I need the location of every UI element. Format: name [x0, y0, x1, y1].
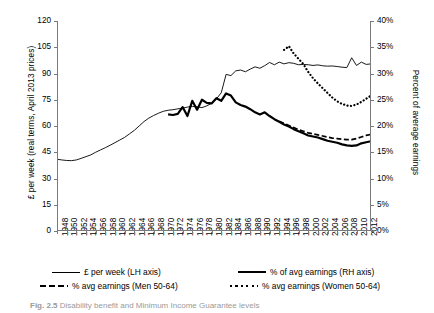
tick-x-1990	[260, 231, 261, 234]
tick-right-45	[371, 152, 374, 153]
y-ticklabel-right-0%: 0%	[377, 226, 411, 235]
y-ticklabel-left-30: 30	[17, 174, 51, 183]
y-ticklabel-right-15%: 15%	[377, 147, 411, 156]
tick-right-0	[371, 231, 374, 232]
y-axis-right-title: Percent of average earnings	[411, 28, 420, 218]
y-ticklabel-right-25%: 25%	[377, 95, 411, 104]
series-line-1	[168, 93, 371, 146]
tick-left-120	[54, 21, 57, 22]
x-ticklabel-2012: 2012	[370, 218, 379, 236]
figure: £ per week (real terms, April 2013 price…	[0, 0, 434, 313]
tick-right-120	[371, 21, 374, 22]
plot-area	[57, 21, 371, 231]
y-ticklabel-right-20%: 20%	[377, 121, 411, 130]
legend-item-0[interactable]: £ per week (LH axis)	[52, 266, 161, 278]
legend-label-2: % avg earnings (Men 50-64)	[72, 280, 178, 292]
legend-item-1[interactable]: % of avg earnings (RH axis)	[238, 266, 374, 278]
series-line-0	[57, 58, 371, 161]
y-ticklabel-left-120: 120	[17, 16, 51, 25]
tick-right-60	[371, 126, 374, 127]
tick-x-1950	[67, 231, 68, 234]
y-ticklabel-right-10%: 10%	[377, 174, 411, 183]
tick-x-1972	[173, 231, 174, 234]
tick-right-15	[371, 205, 374, 206]
tick-right-105	[371, 47, 374, 48]
series-lines	[57, 21, 371, 231]
tick-left-45	[54, 152, 57, 153]
tick-x-1978	[202, 231, 203, 234]
tick-x-1948	[57, 231, 58, 234]
y-ticklabel-right-40%: 40%	[377, 16, 411, 25]
tick-left-90	[54, 74, 57, 75]
series-line-2	[279, 121, 371, 139]
tick-left-75	[54, 100, 57, 101]
tick-x-2002	[318, 231, 319, 234]
tick-x-1952	[76, 231, 77, 234]
tick-x-2004	[328, 231, 329, 234]
axis-spine-left	[57, 21, 58, 231]
legend-label-0: £ per week (LH axis)	[84, 266, 161, 278]
legend-label-1: % of avg earnings (RH axis)	[270, 266, 374, 278]
caption-text: Disability benefit and Minimum Income Gu…	[60, 301, 260, 310]
y-ticklabel-left-15: 15	[17, 200, 51, 209]
tick-x-2006	[337, 231, 338, 234]
tick-left-15	[54, 205, 57, 206]
legend-item-3[interactable]: % avg earnings (Women 50-64)	[230, 280, 380, 292]
tick-x-1982	[221, 231, 222, 234]
figure-caption: Fig. 2.5 Disability benefit and Minimum …	[30, 301, 434, 310]
tick-x-1988	[250, 231, 251, 234]
tick-left-60	[54, 126, 57, 127]
legend-item-2[interactable]: % avg earnings (Men 50-64)	[40, 280, 178, 292]
y-ticklabel-right-5%: 5%	[377, 200, 411, 209]
chart-legend: £ per week (LH axis)% of avg earnings (R…	[40, 266, 434, 294]
tick-x-1998	[299, 231, 300, 234]
tick-x-1986	[241, 231, 242, 234]
y-ticklabel-left-90: 90	[17, 69, 51, 78]
tick-x-1992	[270, 231, 271, 234]
tick-x-1954	[86, 231, 87, 234]
tick-x-1976	[192, 231, 193, 234]
y-ticklabel-right-30%: 30%	[377, 69, 411, 78]
tick-left-30	[54, 179, 57, 180]
y-ticklabel-left-105: 105	[17, 42, 51, 51]
y-ticklabel-left-60: 60	[17, 121, 51, 130]
tick-x-1984	[231, 231, 232, 234]
tick-x-1996	[289, 231, 290, 234]
y-ticklabel-left-45: 45	[17, 147, 51, 156]
tick-x-2000	[308, 231, 309, 234]
tick-x-1966	[144, 231, 145, 234]
y-ticklabel-right-35%: 35%	[377, 42, 411, 51]
legend-swatch-thin-solid-icon	[52, 268, 80, 276]
series-line-3	[284, 46, 371, 106]
caption-number: Fig. 2.5	[30, 301, 58, 310]
tick-x-1980	[212, 231, 213, 234]
tick-x-1974	[183, 231, 184, 234]
tick-x-1964	[134, 231, 135, 234]
axis-spine-bottom	[57, 230, 371, 231]
tick-x-2010	[357, 231, 358, 234]
tick-right-30	[371, 179, 374, 180]
y-ticklabel-left-0: 0	[17, 226, 51, 235]
tick-x-2012	[366, 231, 367, 234]
tick-right-75	[371, 100, 374, 101]
tick-x-1994	[279, 231, 280, 234]
tick-x-1958	[105, 231, 106, 234]
tick-right-90	[371, 74, 374, 75]
tick-x-2008	[347, 231, 348, 234]
tick-x-1962	[125, 231, 126, 234]
tick-left-105	[54, 47, 57, 48]
tick-x-1956	[96, 231, 97, 234]
tick-x-1960	[115, 231, 116, 234]
legend-swatch-dashed-icon	[40, 282, 68, 290]
tick-x-1968	[154, 231, 155, 234]
legend-swatch-thick-solid-icon	[238, 268, 266, 276]
legend-swatch-dotted-icon	[230, 282, 258, 290]
tick-x-1970	[163, 231, 164, 234]
y-ticklabel-left-75: 75	[17, 95, 51, 104]
legend-label-3: % avg earnings (Women 50-64)	[262, 280, 380, 292]
